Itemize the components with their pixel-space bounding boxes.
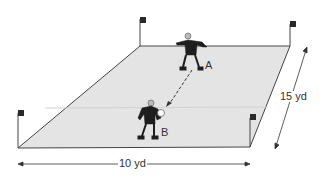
width-label: 10 yd (118, 158, 147, 169)
flag-icon (140, 17, 146, 46)
player-b-label: B (161, 127, 168, 138)
field-drawing (0, 0, 325, 178)
flag-icon (290, 21, 296, 46)
depth-label: 15 yd (279, 91, 308, 102)
ball-icon (158, 110, 165, 117)
player-a-label: A (205, 60, 212, 71)
drill-diagram: A B 10 yd 15 yd (0, 0, 325, 178)
flag-icon (18, 110, 24, 148)
